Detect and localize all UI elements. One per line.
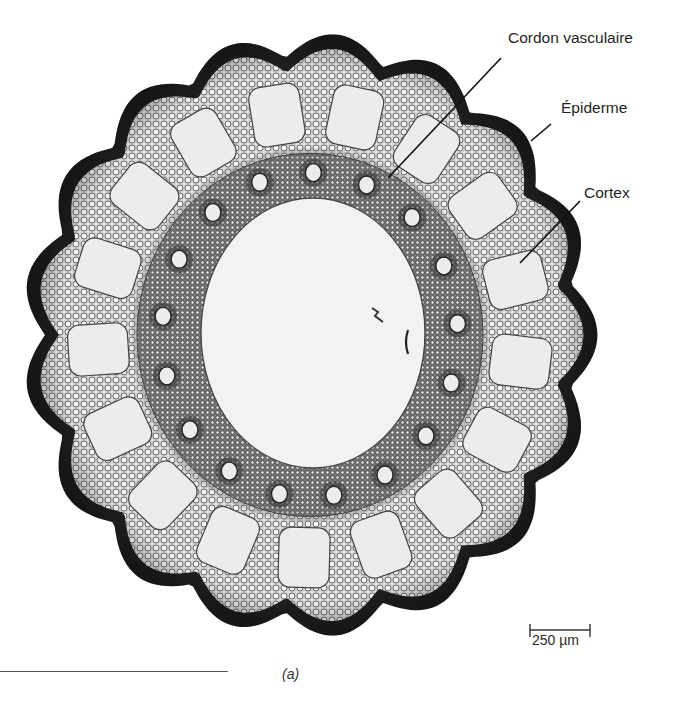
scale-bar-label: 250 µm [532,633,579,647]
stem-cross-section-figure: Cordon vasculaire Épiderme Cortex 250 µm… [0,0,678,702]
panel-label: (a) [282,667,299,681]
label-cortex: Cortex [584,185,630,201]
stem-tissue [27,34,598,635]
separator-rule [0,671,228,672]
label-vascular-bundle: Cordon vasculaire [508,30,633,46]
label-epidermis: Épiderme [561,100,627,116]
leader-line-epidermis [531,124,551,141]
